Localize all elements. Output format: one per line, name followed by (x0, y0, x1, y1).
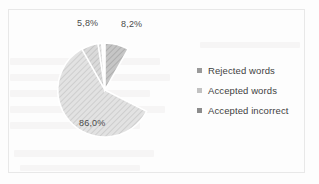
legend-item-rejected-words: Rejected words (197, 60, 302, 80)
pie-label-accepted-words: 5,8% (77, 18, 98, 28)
legend-square-marker (197, 88, 202, 93)
pie-label-accepted-incorrect: 8,2% (121, 19, 142, 29)
pie-chart-graphic (47, 30, 163, 150)
legend-item-label: Accepted words (208, 85, 277, 96)
legend-square-marker (197, 108, 202, 113)
pie-chart-plot-area: 5,8% 8,2% 86,0% Rejected words Accepted … (9, 10, 304, 172)
legend-item-accepted-words: Accepted words (197, 80, 302, 100)
legend-item-accepted-incorrect: Accepted incorrect (197, 100, 302, 120)
pie-label-rejected-words: 86,0% (79, 118, 106, 128)
chart-screenshot: 5,8% 8,2% 86,0% Rejected words Accepted … (0, 0, 319, 184)
legend-item-label: Rejected words (208, 65, 275, 76)
chart-plot-frame: 5,8% 8,2% 86,0% Rejected words Accepted … (8, 9, 305, 173)
legend-square-marker (197, 68, 202, 73)
pie-slice-accepted-incorrect (105, 43, 128, 90)
chart-legend: Rejected words Accepted words Accepted i… (197, 60, 302, 120)
legend-item-label: Accepted incorrect (208, 105, 288, 116)
